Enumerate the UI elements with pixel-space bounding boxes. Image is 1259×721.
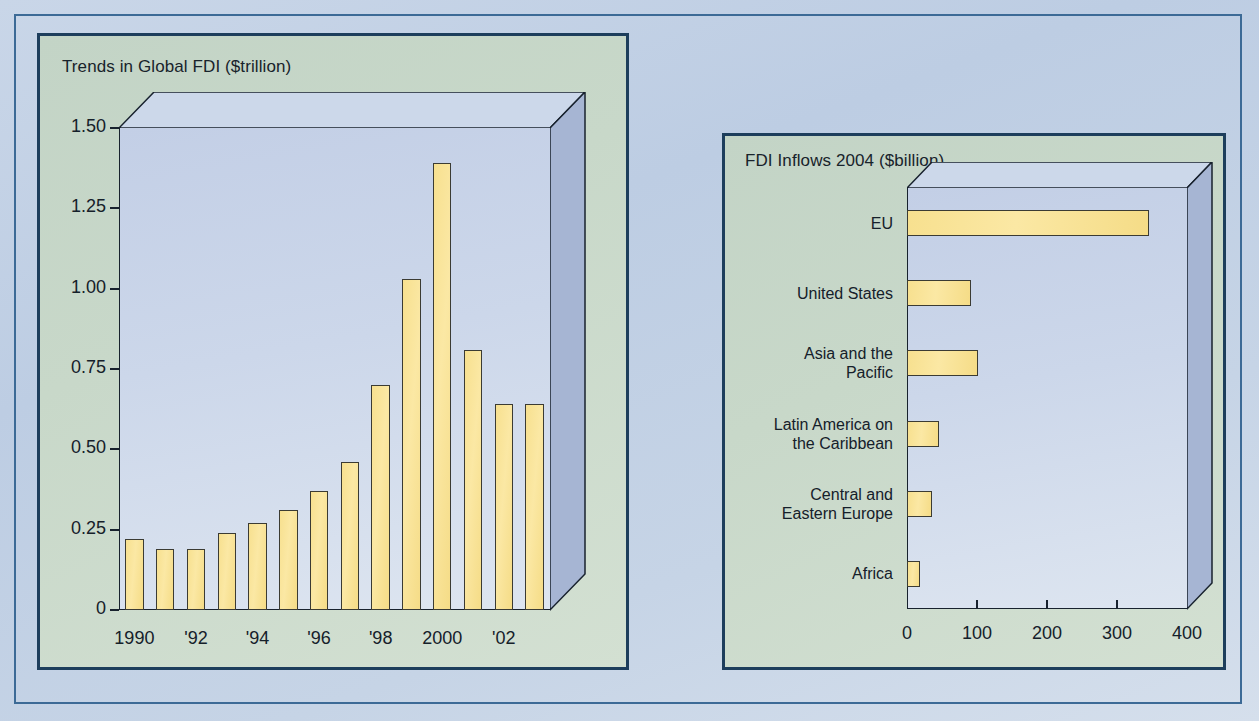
x-tick-mark — [976, 600, 978, 609]
y-tick-label: 0.75 — [48, 357, 106, 378]
chart-panel-fdi-inflows-2004: FDI Inflows 2004 ($billion) EUUnited Sta… — [722, 133, 1226, 670]
y-tick-mark — [110, 368, 119, 370]
plot-box-top-face — [907, 162, 1212, 190]
category-label-row-5: Central and Eastern Europe — [737, 485, 893, 523]
bar-1992 — [187, 549, 205, 610]
bar-row-1 — [907, 210, 1149, 236]
x-tick-label: 400 — [1147, 623, 1227, 644]
plot-box-right-face — [1187, 162, 1214, 611]
y-tick-label: 0.50 — [48, 437, 106, 458]
x-tick-mark — [1046, 600, 1048, 609]
bar-2000 — [433, 163, 451, 610]
category-label-row-3: Asia and the Pacific — [737, 344, 893, 382]
bar-row-6 — [907, 561, 920, 587]
chart-title-trends-global-fdi: Trends in Global FDI ($trillion) — [62, 57, 291, 77]
plot-box-right-face — [550, 92, 587, 612]
bar-2003 — [525, 404, 543, 610]
y-tick-mark — [110, 127, 119, 129]
y-tick-label: 0 — [48, 598, 106, 619]
plot-box-top-face — [119, 92, 585, 128]
plot-box-front-face — [119, 128, 550, 610]
category-label-row-4: Latin America on the Caribbean — [737, 415, 893, 453]
figure-container: Trends in Global FDI ($trillion) 00.250.… — [0, 0, 1259, 721]
y-tick-mark — [110, 609, 119, 611]
bar-row-5 — [907, 491, 932, 517]
x-tick-label: '02 — [459, 628, 549, 649]
chart-panel-trends-global-fdi: Trends in Global FDI ($trillion) 00.250.… — [37, 33, 629, 670]
bar-1997 — [341, 462, 359, 610]
bar-1991 — [156, 549, 174, 610]
y-tick-mark — [110, 288, 119, 290]
x-tick-label: 300 — [1077, 623, 1157, 644]
y-tick-label: 0.25 — [48, 518, 106, 539]
y-tick-mark — [110, 529, 119, 531]
bar-2001 — [464, 350, 482, 610]
bar-1998 — [371, 385, 389, 610]
bar-1994 — [248, 523, 266, 610]
category-label-row-6: Africa — [737, 564, 893, 583]
x-tick-label: 200 — [1007, 623, 1087, 644]
y-tick-mark — [110, 207, 119, 209]
bar-1996 — [310, 491, 328, 610]
category-label-row-1: EU — [737, 214, 893, 233]
bar-row-2 — [907, 280, 971, 306]
bar-row-4 — [907, 421, 939, 447]
x-tick-label: 100 — [937, 623, 1017, 644]
x-tick-mark — [1116, 600, 1118, 609]
category-label-row-2: United States — [737, 284, 893, 303]
bar-1999 — [402, 279, 420, 610]
y-tick-label: 1.00 — [48, 277, 106, 298]
x-tick-label: 0 — [867, 623, 947, 644]
y-tick-label: 1.50 — [48, 116, 106, 137]
bar-1990 — [125, 539, 143, 610]
bar-1993 — [218, 533, 236, 610]
y-tick-label: 1.25 — [48, 196, 106, 217]
bar-2002 — [495, 404, 513, 610]
bar-1995 — [279, 510, 297, 610]
y-tick-mark — [110, 448, 119, 450]
plot-box-front-face — [907, 188, 1187, 609]
bar-row-3 — [907, 350, 978, 376]
